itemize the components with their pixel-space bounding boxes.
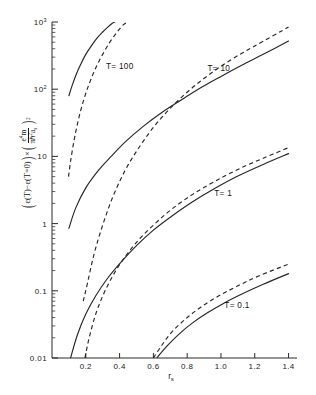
curve-annotation-label: T= 0.1 [224,301,249,310]
data-curve [71,154,289,358]
x-axis-tick-label: 1.4 [282,362,294,371]
data-curve [85,148,289,358]
y-axis-tick-label: 102 [34,84,47,94]
chart-text-layer: 0.010.11101021030.20.40.60.81.01.21.4rsT… [30,17,295,383]
figure-container: 0.010.11101021030.20.40.60.81.01.21.4rsT… [0,0,316,395]
data-curve [153,264,288,358]
curve-annotation-label: T= 100 [106,62,134,71]
x-axis-tick-label: 1.2 [249,362,261,371]
x-axis-tick-label: 0.8 [181,362,193,371]
y-axis-tick-label: 0.01 [30,354,47,363]
x-axis-tick-label: 0.6 [147,362,159,371]
x-axis-tick-label: 0.2 [80,362,92,371]
y-axis-tick-label: 10 [37,152,47,161]
x-axis-tick-label: 0.4 [113,362,125,371]
curves-group [69,22,289,358]
data-curve [69,22,115,96]
y-axis-tick-label: 1 [42,220,47,229]
y-axis-tick-label: 103 [34,17,47,27]
data-curve [69,41,289,228]
x-axis-tick-label: 1.0 [215,362,227,371]
chart-plot-area: 0.010.11101021030.20.40.60.81.01.21.4rsT… [0,0,316,395]
y-axis-tick-label: 0.1 [35,287,47,296]
data-curve [157,274,289,358]
curve-annotation-label: T= 10 [207,64,230,73]
data-curve [69,22,128,177]
curve-annotation-label: T= 1 [214,189,232,198]
x-axis-title: rs [168,372,174,382]
